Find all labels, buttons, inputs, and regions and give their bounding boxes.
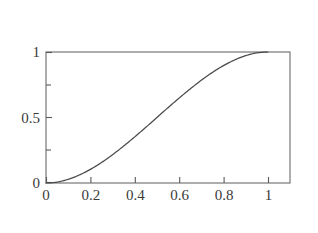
x-tick-label-1: 1 — [265, 188, 273, 203]
figure-root: F(x) — [0, 0, 318, 233]
x-tick-label-0.6: 0.6 — [170, 188, 189, 203]
x-tick-label-0.2: 0.2 — [82, 188, 101, 203]
y-tick-label-0.5: 0.5 — [12, 110, 40, 125]
x-tick-label-0.8: 0.8 — [215, 188, 234, 203]
y-tick-label-0: 0 — [20, 176, 40, 191]
y-tick-label-1: 1 — [20, 45, 40, 60]
x-tick-label-0.4: 0.4 — [126, 188, 145, 203]
x-tick-label-0: 0 — [42, 188, 50, 203]
